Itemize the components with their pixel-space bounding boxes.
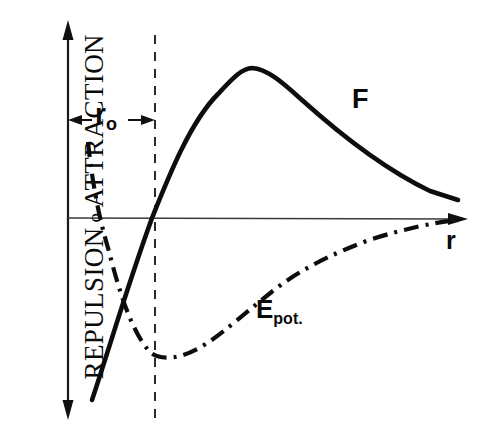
equilibrium-distance-symbol: r (95, 98, 106, 129)
horizontal-axis-line (68, 218, 455, 219)
vertical-axis-label-repulsion: REPULSION (79, 227, 109, 379)
potential-energy-curve-label: Epot. (256, 296, 303, 327)
vertical-axis-zero-marker: o (84, 207, 105, 227)
horizontal-axis-label: r (446, 228, 456, 253)
potential-energy-symbol: E (256, 294, 273, 324)
horizontal-axis (68, 213, 468, 225)
vertical-axis-arrowhead-up (63, 20, 74, 40)
potential-energy-subscript: pot. (273, 310, 302, 327)
interatomic-force-potential-diagram: REPULSIONoATTRACTION ro F Epot. r (0, 0, 488, 438)
horizontal-axis-arrowhead (448, 213, 468, 225)
r0-measure-right-arrowhead (141, 115, 155, 125)
vertical-axis-arrowhead-down (63, 400, 74, 420)
equilibrium-distance-label: ro (95, 100, 117, 133)
equilibrium-distance-subscript: o (106, 114, 117, 134)
plot-canvas (0, 0, 488, 438)
force-curve-label: F (352, 86, 369, 113)
vertical-axis-label: REPULSIONoATTRACTION (81, 40, 108, 380)
vertical-axis (63, 20, 74, 420)
